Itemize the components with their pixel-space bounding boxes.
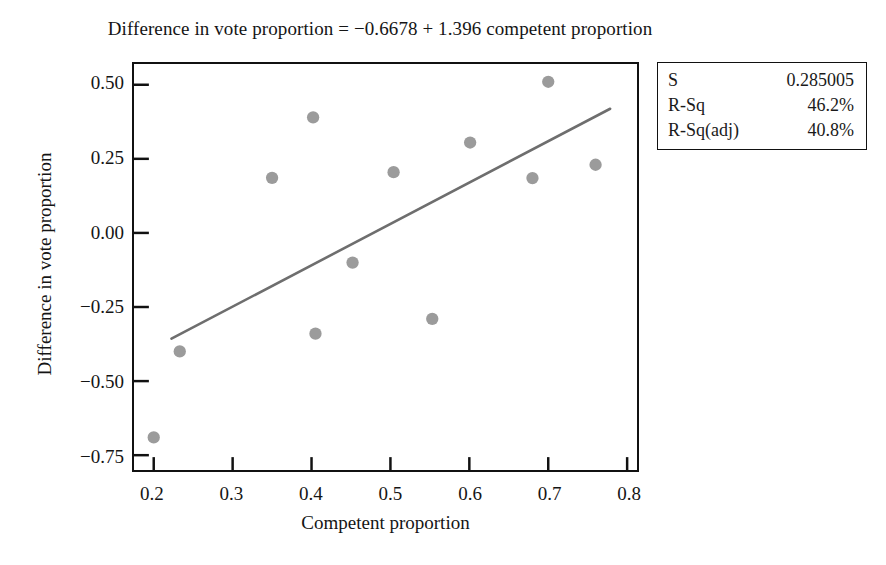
x-tick-label: 0.6 (440, 484, 500, 503)
stats-value: 0.285005 (787, 68, 855, 93)
data-point (464, 136, 476, 148)
y-tick-label: −0.50 (52, 372, 124, 391)
y-axis-title: Difference in vote proportion (34, 59, 56, 469)
data-point (174, 345, 186, 357)
chart-title: Difference in vote proportion = −0.6678 … (0, 18, 760, 40)
data-point (589, 159, 601, 171)
data-point (526, 172, 538, 184)
data-point (148, 431, 160, 443)
stats-value: 46.2% (808, 93, 855, 118)
data-point (542, 76, 554, 88)
y-axis-tick-labels: 0.500.250.00−0.25−0.50−0.75 (48, 62, 124, 472)
x-tick-label: 0.7 (520, 484, 580, 503)
x-axis-title: Competent proportion (132, 512, 639, 534)
data-point (387, 166, 399, 178)
data-point (426, 313, 438, 325)
x-tick-label: 0.5 (360, 484, 420, 503)
stats-key: S (668, 68, 678, 93)
y-tick-label: −0.75 (52, 447, 124, 466)
data-point (266, 172, 278, 184)
regression-fit-line (171, 109, 610, 339)
stats-key: R-Sq(adj) (668, 118, 739, 143)
regression-scatter-figure: Difference in vote proportion = −0.6678 … (0, 0, 886, 565)
regression-stats-box: S0.285005R-Sq46.2%R-Sq(adj)40.8% (657, 62, 867, 150)
stats-row: R-Sq46.2% (658, 93, 866, 118)
data-point (307, 111, 319, 123)
x-tick-label: 0.8 (599, 484, 659, 503)
data-point (346, 256, 358, 268)
plot-canvas (134, 64, 637, 470)
stats-row: R-Sq(adj)40.8% (658, 118, 866, 143)
y-tick-label: 0.50 (52, 73, 124, 92)
stats-row: S0.285005 (658, 68, 866, 93)
y-tick-label: 0.00 (52, 223, 124, 242)
x-axis-tick-labels: 0.20.30.40.50.60.70.8 (132, 484, 639, 510)
x-tick-label: 0.2 (122, 484, 182, 503)
data-point (309, 328, 321, 340)
stats-value: 40.8% (808, 118, 855, 143)
stats-key: R-Sq (668, 93, 705, 118)
plot-area (132, 62, 639, 472)
x-tick-label: 0.3 (201, 484, 261, 503)
y-tick-label: 0.25 (52, 148, 124, 167)
x-tick-label: 0.4 (281, 484, 341, 503)
y-tick-label: −0.25 (52, 297, 124, 316)
